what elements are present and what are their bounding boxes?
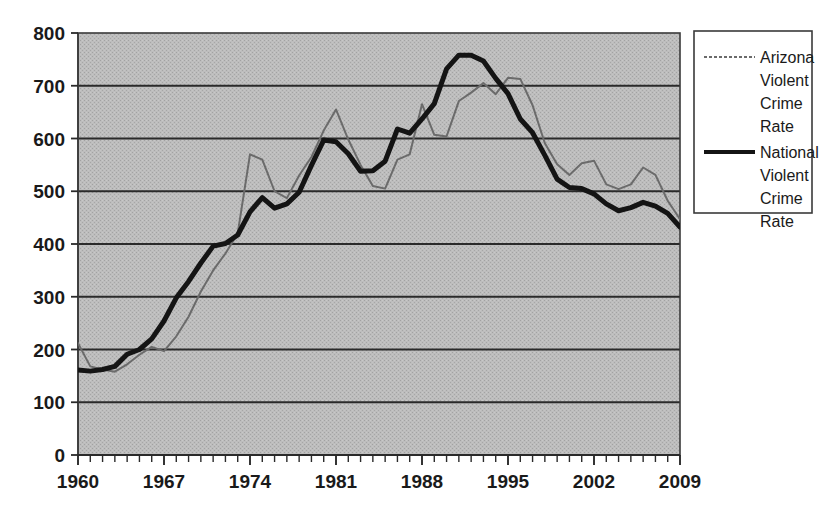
legend-label-arizona-line-2: Violent (760, 72, 809, 89)
y-tick-label-600: 600 (33, 129, 65, 150)
x-tick-label-1960: 1960 (57, 471, 99, 492)
legend-label-arizona-line-3: Crime (760, 95, 803, 112)
y-axis-tick-labels: 0100200300400500600700800 (33, 23, 65, 466)
chart-canvas: 0100200300400500600700800 19601967197419… (0, 0, 835, 518)
y-tick-label-400: 400 (33, 234, 65, 255)
legend-label-arizona-line-1: Arizona (760, 49, 814, 66)
violent-crime-rate-line-chart: 0100200300400500600700800 19601967197419… (0, 0, 835, 518)
x-axis-minor-ticks (78, 455, 680, 465)
x-tick-label-1981: 1981 (315, 471, 358, 492)
x-tick-label-1988: 1988 (401, 471, 443, 492)
y-tick-label-300: 300 (33, 287, 65, 308)
y-axis-ticks (71, 33, 78, 455)
legend-label-national-line-4: Rate (760, 213, 794, 230)
legend-label-national-line-1: National (760, 144, 819, 161)
y-tick-label-800: 800 (33, 23, 65, 44)
y-tick-label-700: 700 (33, 76, 65, 97)
x-tick-label-2002: 2002 (573, 471, 615, 492)
y-tick-label-100: 100 (33, 392, 65, 413)
y-tick-label-500: 500 (33, 181, 65, 202)
x-tick-label-2009: 2009 (659, 471, 701, 492)
legend-label-national-line-2: Violent (760, 167, 809, 184)
x-tick-label-1974: 1974 (229, 471, 272, 492)
legend-label-arizona-line-4: Rate (760, 118, 794, 135)
y-tick-label-200: 200 (33, 340, 65, 361)
legend-label-national-line-3: Crime (760, 190, 803, 207)
y-tick-label-0: 0 (54, 445, 65, 466)
x-tick-label-1967: 1967 (143, 471, 185, 492)
x-tick-label-1995: 1995 (487, 471, 530, 492)
x-axis-tick-labels: 19601967197419811988199520022009 (57, 471, 701, 492)
